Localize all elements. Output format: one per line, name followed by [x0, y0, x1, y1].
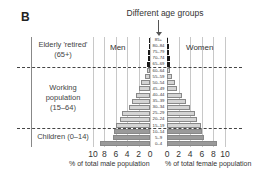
female-bar-3 [167, 56, 170, 61]
male-bar-17 [100, 141, 150, 146]
female-tick: 10 [220, 149, 230, 159]
male-bar-11 [129, 105, 150, 110]
men-label: Men [110, 43, 126, 52]
female-bar-6 [167, 74, 172, 79]
age-label: 0–4 [150, 141, 167, 147]
male-bar-13 [120, 117, 150, 122]
female-bar-10 [167, 99, 186, 104]
working-label-line3: (15–64) [34, 103, 92, 113]
female-tick: 6 [197, 149, 207, 159]
female-bar-8 [167, 86, 177, 91]
male-tick: 6 [111, 149, 121, 159]
women-label: Women [186, 43, 213, 52]
group-bracket-line [31, 37, 32, 147]
female-bar-2 [167, 50, 169, 55]
male-axis-title: % of total male population [69, 160, 150, 167]
male-bar-16 [113, 135, 150, 140]
elderly-label: Elderly 'retired' (65+) [34, 40, 92, 60]
female-bar-17 [167, 141, 217, 146]
male-bar-7 [141, 80, 150, 85]
male-tick: 10 [88, 149, 98, 159]
female-bar-16 [167, 135, 204, 140]
working-label-line2: population [34, 93, 92, 103]
male-bar-8 [139, 86, 150, 91]
female-axis-title: % of total female population [165, 160, 251, 167]
elderly-label-line2: (65+) [34, 50, 92, 60]
grid-line [104, 37, 105, 147]
elderly-label-line1: Elderly 'retired' [34, 40, 92, 50]
female-bar-11 [167, 105, 190, 110]
grid-line [225, 37, 226, 147]
female-bar-12 [167, 111, 195, 116]
male-bar-12 [122, 111, 150, 116]
children-label: Children (0–14) [34, 132, 92, 142]
male-tick: 0 [145, 149, 155, 159]
chart-title: Different age groups [110, 8, 220, 18]
male-bar-15 [114, 129, 150, 134]
working-children-divider [17, 128, 242, 129]
female-bar-5 [167, 68, 170, 73]
grid-line [213, 37, 214, 147]
grid-line [93, 37, 94, 147]
female-tick: 4 [185, 149, 195, 159]
female-bar-0 [167, 38, 168, 43]
age-group-labels: 85+80–8475–7970–7465–6960–6455–5950–5445… [150, 37, 167, 147]
female-tick: 2 [174, 149, 184, 159]
arrow-head-icon [156, 32, 162, 36]
female-bar-9 [167, 93, 182, 98]
children-label-line1: Children (0–14) [34, 132, 92, 142]
female-tick: 0 [162, 149, 172, 159]
panel-letter: B [21, 10, 30, 24]
male-tick: 4 [122, 149, 132, 159]
male-bar-9 [136, 93, 150, 98]
male-tick: 2 [134, 149, 144, 159]
male-tick: 8 [99, 149, 109, 159]
male-bar-10 [132, 99, 150, 104]
female-bar-7 [167, 80, 175, 85]
working-label-line1: Working [34, 83, 92, 93]
working-label: Working population (15–64) [34, 83, 92, 113]
female-bar-13 [167, 117, 197, 122]
female-bar-1 [167, 44, 169, 49]
female-tick: 8 [208, 149, 218, 159]
elderly-working-divider [17, 67, 242, 68]
female-plot-area [167, 37, 225, 147]
male-plot-area [93, 37, 150, 147]
female-bar-15 [167, 129, 202, 134]
